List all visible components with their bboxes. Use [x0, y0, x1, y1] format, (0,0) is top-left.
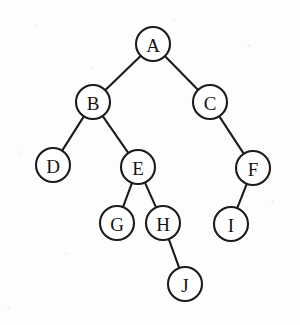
tree-node-label-j: J: [181, 275, 188, 296]
tree-node-h[interactable]: H: [146, 206, 180, 240]
tree-node-label-f: F: [248, 159, 259, 180]
tree-node-label-d: D: [46, 156, 60, 177]
tree-node-g[interactable]: G: [100, 206, 134, 240]
tree-node-label-c: C: [204, 93, 217, 114]
tree-edge-h-j: [169, 239, 180, 269]
tree-diagram-canvas: ABCDEFGHIJ: [0, 0, 300, 325]
tree-edge-e-h: [145, 182, 157, 208]
node-layer: ABCDEFGHIJ: [36, 27, 270, 301]
tree-node-label-e: E: [132, 158, 144, 179]
tree-node-d[interactable]: D: [36, 148, 70, 182]
tree-edge-b-d: [62, 116, 84, 151]
tree-node-i[interactable]: I: [214, 207, 248, 241]
tree-edge-b-e: [102, 116, 128, 154]
tree-node-e[interactable]: E: [121, 150, 155, 184]
tree-edge-a-c: [165, 56, 199, 90]
tree-node-a[interactable]: A: [136, 27, 170, 61]
tree-edge-c-f: [219, 116, 244, 154]
tree-node-c[interactable]: C: [193, 85, 227, 119]
tree-node-label-g: G: [110, 214, 124, 235]
tree-diagram-svg: ABCDEFGHIJ: [0, 0, 300, 325]
tree-edge-f-i: [237, 183, 247, 208]
tree-node-label-a: A: [146, 35, 160, 56]
tree-node-label-b: B: [87, 93, 100, 114]
tree-node-f[interactable]: F: [236, 151, 270, 185]
tree-node-label-h: H: [156, 214, 170, 235]
tree-node-b[interactable]: B: [76, 85, 110, 119]
tree-edge-a-b: [105, 55, 141, 90]
tree-node-label-i: I: [228, 215, 234, 236]
tree-node-j[interactable]: J: [168, 267, 202, 301]
tree-edge-e-g: [123, 182, 132, 207]
